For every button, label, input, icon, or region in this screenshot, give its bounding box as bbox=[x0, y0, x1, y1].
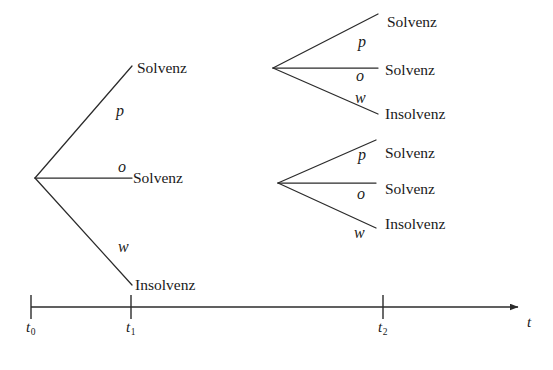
probability-label-s2u-down: w bbox=[355, 90, 366, 106]
event-tree-diagram: pSolvenzoSolvenzwInsolvenzpSolvenzoSolve… bbox=[0, 0, 553, 370]
outcome-label-s2l-up: Solvenz bbox=[385, 145, 435, 161]
outcome-label-s1-down: Insolvenz bbox=[135, 277, 195, 293]
probability-label-s2l-mid: o bbox=[357, 186, 365, 202]
axis-tick-label-t0: t0 bbox=[26, 320, 35, 335]
outcome-label-s2l-mid: Solvenz bbox=[385, 181, 435, 197]
probability-label-s1-up: p bbox=[116, 103, 124, 119]
branch-lines bbox=[35, 14, 378, 285]
tree-canvas bbox=[0, 0, 553, 370]
axis-tick-label-t1: t1 bbox=[126, 320, 135, 335]
probability-label-s2l-down: w bbox=[354, 225, 365, 241]
branch-line-s1-down bbox=[35, 178, 132, 285]
time-axis-group bbox=[31, 295, 518, 319]
outcome-label-s1-up: Solvenz bbox=[137, 60, 187, 76]
probability-label-s2l-up: p bbox=[358, 147, 366, 163]
outcome-label-s2l-down: Insolvenz bbox=[385, 216, 445, 232]
outcome-label-s1-mid: Solvenz bbox=[133, 170, 183, 186]
outcome-label-s2u-down: Insolvenz bbox=[385, 106, 445, 122]
axis-tick-label-t2: t2 bbox=[378, 320, 387, 335]
outcome-label-s2u-mid: Solvenz bbox=[385, 62, 435, 78]
outcome-label-s2u-up: Solvenz bbox=[387, 14, 437, 30]
axis-name-label: t bbox=[527, 315, 531, 330]
probability-label-s2u-up: p bbox=[358, 34, 366, 50]
probability-label-s1-mid: o bbox=[118, 159, 126, 175]
probability-label-s1-down: w bbox=[118, 239, 129, 255]
probability-label-s2u-mid: o bbox=[356, 68, 364, 84]
